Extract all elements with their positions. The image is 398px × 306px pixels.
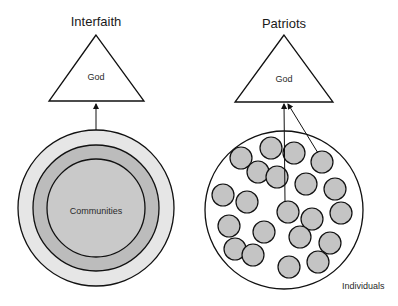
individual-circle xyxy=(247,161,269,183)
god-label: God xyxy=(87,72,104,82)
patriots-title: Patriots xyxy=(262,16,307,31)
individual-circle xyxy=(236,191,258,213)
god-triangle xyxy=(49,35,144,101)
individual-circle xyxy=(260,137,282,159)
communities-label: Communities xyxy=(70,206,123,216)
individual-circle xyxy=(253,221,275,243)
individual-circle xyxy=(218,215,240,237)
diagram-canvas: Interfaith God Communities Patriots God … xyxy=(0,0,398,306)
individual-circle xyxy=(295,173,317,195)
individual-circle xyxy=(330,202,352,224)
individual-circle xyxy=(242,244,264,266)
individual-circle xyxy=(277,201,299,223)
individual-circle xyxy=(289,226,311,248)
individual-circle xyxy=(307,251,329,273)
patriots-panel: Patriots God Individuals xyxy=(205,16,385,291)
interfaith-panel: Interfaith God Communities xyxy=(18,14,174,286)
god-label: God xyxy=(275,74,292,84)
individual-circle xyxy=(283,142,305,164)
individual-circle xyxy=(319,232,341,254)
interfaith-title: Interfaith xyxy=(71,14,122,29)
individual-circle xyxy=(212,184,234,206)
individual-circle xyxy=(324,178,346,200)
individuals-label: Individuals xyxy=(342,281,385,291)
god-triangle xyxy=(235,35,333,102)
individual-circle xyxy=(311,151,333,173)
individual-circle xyxy=(278,256,300,278)
